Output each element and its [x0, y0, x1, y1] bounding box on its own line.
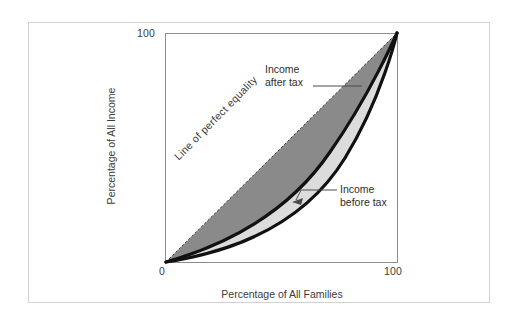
callout-after-tax-line1: Income: [265, 63, 303, 76]
callout-after-tax-line2: after tax: [265, 76, 303, 89]
callout-income-before-tax: Income before tax: [340, 183, 387, 208]
callout-before-tax-line2: before tax: [340, 196, 387, 209]
lorenz-chart-svg: [0, 0, 518, 324]
lorenz-curve-figure: 100 0 100 Percentage of All Families Per…: [0, 0, 518, 324]
y-axis-tick-100: 100: [137, 27, 155, 39]
y-axis-title: Percentage of All Income: [105, 30, 117, 262]
callout-income-after-tax: Income after tax: [265, 63, 303, 88]
x-axis-tick-0: 0: [159, 265, 165, 277]
x-axis-title: Percentage of All Families: [166, 288, 398, 300]
x-axis-tick-100: 100: [384, 265, 402, 277]
callout-before-tax-line1: Income: [340, 183, 387, 196]
